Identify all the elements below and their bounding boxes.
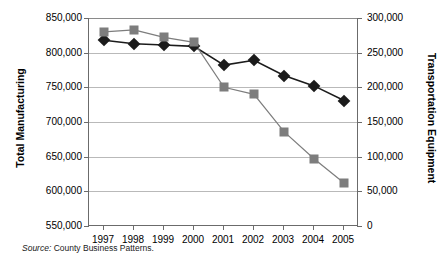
x-tick-label: 2005 <box>323 234 363 245</box>
source-note: Source: County Business Patterns. <box>22 243 154 253</box>
data-point-square <box>310 154 319 163</box>
left-tick-mark <box>84 18 89 19</box>
x-tick-mark <box>103 226 104 230</box>
left-tick-mark <box>84 191 89 192</box>
left-tick-mark <box>84 87 89 88</box>
left-tick-mark <box>84 53 89 54</box>
source-label: Source: <box>22 243 51 253</box>
right-tick-mark <box>357 87 362 88</box>
left-tick-mark <box>84 226 89 227</box>
right-tick-mark <box>357 191 362 192</box>
x-tick-mark <box>193 226 194 230</box>
source-text: County Business Patterns. <box>54 243 154 253</box>
left-tick-mark <box>84 157 89 158</box>
right-tick-label: 50,000 <box>367 186 427 196</box>
right-tick-mark <box>357 53 362 54</box>
right-tick-mark <box>357 226 362 227</box>
data-point-square <box>280 127 289 136</box>
right-tick-label: 0 <box>367 221 427 231</box>
left-tick-label: 600,000 <box>22 186 82 196</box>
series-lines <box>89 18 359 226</box>
x-tick-mark <box>343 226 344 230</box>
data-point-square <box>100 27 109 36</box>
left-tick-label: 650,000 <box>22 152 82 162</box>
data-point-square <box>340 179 349 188</box>
right-tick-label: 300,000 <box>367 13 427 23</box>
plot-area <box>88 18 358 226</box>
left-tick-label: 550,000 <box>22 221 82 231</box>
left-tick-label: 850,000 <box>22 13 82 23</box>
data-point-square <box>160 33 169 42</box>
data-point-square <box>250 90 259 99</box>
right-tick-mark <box>357 18 362 19</box>
x-tick-mark <box>223 226 224 230</box>
left-tick-mark <box>84 122 89 123</box>
x-tick-mark <box>163 226 164 230</box>
right-tick-mark <box>357 122 362 123</box>
left-tick-label: 700,000 <box>22 117 82 127</box>
data-point-square <box>190 38 199 47</box>
series-line <box>104 30 344 183</box>
data-point-square <box>220 83 229 92</box>
right-tick-label: 250,000 <box>367 48 427 58</box>
data-point-square <box>130 25 139 34</box>
x-tick-mark <box>283 226 284 230</box>
right-tick-label: 200,000 <box>367 82 427 92</box>
right-axis-title: Transportation Equipment <box>426 38 438 198</box>
x-tick-mark <box>253 226 254 230</box>
x-tick-mark <box>313 226 314 230</box>
left-tick-label: 800,000 <box>22 48 82 58</box>
x-tick-mark <box>133 226 134 230</box>
right-tick-label: 100,000 <box>367 152 427 162</box>
left-tick-label: 750,000 <box>22 82 82 92</box>
right-tick-mark <box>357 157 362 158</box>
right-tick-label: 150,000 <box>367 117 427 127</box>
chart-figure: Total Manufacturing Transportation Equip… <box>0 0 441 262</box>
